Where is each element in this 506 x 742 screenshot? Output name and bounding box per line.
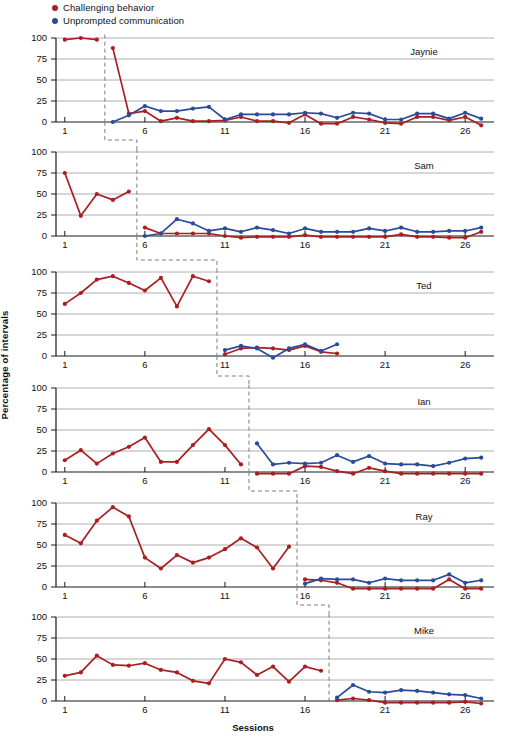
y-tick-label-100: 100 — [31, 382, 47, 393]
data-point-challenging-baseline-10 — [207, 681, 211, 685]
data-point-unprompted-intervention-9 — [191, 221, 195, 225]
phase-staircase-connector — [137, 236, 217, 269]
data-point-unprompted-intervention-26 — [463, 111, 467, 115]
data-point-challenging-intervention-19 — [351, 235, 355, 239]
panel-title-mike: Mike — [414, 625, 434, 636]
data-point-unprompted-intervention-13 — [255, 226, 259, 230]
data-point-challenging-baseline-8 — [175, 304, 179, 308]
data-point-challenging-intervention-4 — [111, 46, 115, 50]
data-point-challenging-baseline-1 — [63, 533, 67, 537]
y-tick-label-25: 25 — [36, 674, 47, 685]
data-point-unprompted-intervention-22 — [399, 688, 403, 692]
data-point-challenging-baseline-2 — [79, 448, 83, 452]
data-point-challenging-intervention-23 — [415, 235, 419, 239]
data-point-challenging-baseline-11 — [223, 443, 227, 447]
data-point-challenging-baseline-15 — [287, 680, 291, 684]
data-point-unprompted-intervention-27 — [479, 696, 483, 700]
data-point-unprompted-intervention-22 — [399, 578, 403, 582]
data-point-challenging-intervention-27 — [479, 701, 483, 705]
x-tick-label-16: 16 — [300, 475, 311, 486]
y-tick-label-0: 0 — [42, 116, 47, 127]
phase-staircase-connector — [105, 122, 137, 149]
series-line-challenging-baseline — [65, 507, 289, 568]
data-point-challenging-baseline-9 — [191, 679, 195, 683]
data-point-challenging-baseline-4 — [111, 505, 115, 509]
y-tick-label-50: 50 — [36, 74, 47, 85]
panel-title-ray: Ray — [416, 511, 433, 522]
data-point-unprompted-intervention-11 — [223, 117, 227, 121]
x-tick-label-16: 16 — [300, 704, 311, 715]
x-tick-label-26: 26 — [460, 239, 471, 250]
data-point-unprompted-intervention-15 — [287, 346, 291, 350]
data-point-challenging-intervention-7 — [159, 119, 163, 123]
data-point-challenging-intervention-8 — [175, 116, 179, 120]
data-point-challenging-intervention-17 — [319, 235, 323, 239]
y-tick-label-75: 75 — [36, 632, 47, 643]
panel-jaynie: 02550751001611162126Jaynie — [31, 32, 494, 148]
data-point-challenging-intervention-19 — [351, 115, 355, 119]
data-point-unprompted-intervention-18 — [335, 453, 339, 457]
data-point-challenging-intervention-23 — [415, 472, 419, 476]
data-point-unprompted-intervention-19 — [351, 460, 355, 464]
data-point-unprompted-intervention-21 — [383, 577, 387, 581]
y-tick-label-100: 100 — [31, 146, 47, 157]
y-tick-label-50: 50 — [36, 424, 47, 435]
data-point-unprompted-intervention-18 — [335, 116, 339, 120]
phase-staircase-connector — [249, 472, 297, 500]
data-point-unprompted-intervention-27 — [479, 456, 483, 460]
y-tick-label-25: 25 — [36, 560, 47, 571]
data-point-challenging-baseline-14 — [271, 664, 275, 668]
data-point-challenging-baseline-13 — [255, 545, 259, 549]
data-point-unprompted-intervention-11 — [223, 226, 227, 230]
data-point-challenging-intervention-22 — [399, 701, 403, 705]
x-tick-label-26: 26 — [460, 475, 471, 486]
data-point-unprompted-intervention-23 — [415, 230, 419, 234]
data-point-unprompted-intervention-22 — [399, 462, 403, 466]
data-point-challenging-intervention-25 — [447, 701, 451, 705]
data-point-challenging-intervention-25 — [447, 472, 451, 476]
data-point-challenging-intervention-13 — [255, 235, 259, 239]
data-point-unprompted-intervention-7 — [159, 109, 163, 113]
data-point-challenging-baseline-6 — [143, 288, 147, 292]
data-point-challenging-intervention-19 — [351, 696, 355, 700]
x-tick-label-11: 11 — [220, 590, 230, 601]
data-point-challenging-intervention-11 — [223, 352, 227, 356]
data-point-challenging-baseline-6 — [143, 556, 147, 560]
data-point-unprompted-intervention-19 — [351, 111, 355, 115]
x-tick-label-1: 1 — [62, 125, 67, 136]
data-point-challenging-intervention-22 — [399, 472, 403, 476]
data-point-unprompted-intervention-20 — [367, 581, 371, 585]
data-point-unprompted-intervention-18 — [335, 230, 339, 234]
data-point-challenging-intervention-18 — [335, 351, 339, 355]
data-point-challenging-intervention-23 — [415, 587, 419, 591]
panel-mike: 02550751001611162126Mike — [31, 611, 494, 715]
data-point-unprompted-intervention-11 — [223, 348, 227, 352]
data-point-unprompted-intervention-18 — [335, 696, 339, 700]
x-tick-label-11: 11 — [220, 125, 230, 136]
data-point-challenging-baseline-11 — [223, 547, 227, 551]
x-tick-label-1: 1 — [62, 359, 67, 370]
data-point-unprompted-intervention-17 — [319, 577, 323, 581]
data-point-unprompted-intervention-14 — [271, 228, 275, 232]
data-point-unprompted-intervention-12 — [239, 112, 243, 116]
data-point-challenging-intervention-27 — [479, 587, 483, 591]
data-point-challenging-baseline-3 — [95, 38, 99, 42]
y-tick-label-50: 50 — [36, 308, 47, 319]
data-point-challenging-baseline-10 — [207, 427, 211, 431]
data-point-unprompted-intervention-27 — [479, 117, 483, 121]
data-point-unprompted-intervention-14 — [271, 356, 275, 360]
data-point-challenging-baseline-5 — [127, 281, 131, 285]
y-tick-label-100: 100 — [31, 497, 47, 508]
data-point-unprompted-intervention-19 — [351, 230, 355, 234]
data-point-unprompted-intervention-7 — [159, 231, 163, 235]
y-tick-label-75: 75 — [36, 167, 47, 178]
data-point-challenging-intervention-21 — [383, 587, 387, 591]
data-point-challenging-intervention-9 — [191, 231, 195, 235]
x-tick-label-1: 1 — [62, 704, 67, 715]
data-point-challenging-baseline-5 — [127, 445, 131, 449]
x-tick-label-16: 16 — [300, 125, 311, 136]
data-point-challenging-intervention-6 — [143, 226, 147, 230]
data-point-unprompted-intervention-18 — [335, 577, 339, 581]
data-point-challenging-baseline-13 — [255, 673, 259, 677]
x-tick-label-21: 21 — [380, 125, 391, 136]
